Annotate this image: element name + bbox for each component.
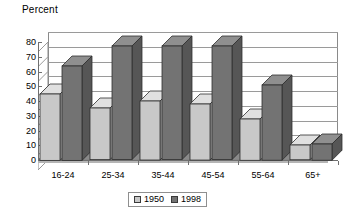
x-tick-65+ — [338, 161, 339, 165]
x-axis-label-65+: 65+ — [288, 170, 338, 180]
x-axis-label-55-64: 55-64 — [238, 170, 288, 180]
legend-item-1998[interactable]: 1998 — [171, 195, 201, 204]
chart-root: Percent — [0, 0, 351, 219]
legend-swatch-1998 — [171, 196, 178, 203]
x-axis-label-35-44: 35-44 — [138, 170, 188, 180]
x-tick-35-44 — [188, 161, 189, 165]
legend-label-1998: 1998 — [181, 195, 201, 204]
legend-label-1950: 1950 — [144, 195, 164, 204]
plot-area: 80 70 60 50 40 30 20 10 0 16-2425-3435-4… — [0, 0, 351, 219]
legend-swatch-1950 — [134, 196, 141, 203]
chart-legend: 1950 1998 — [128, 192, 207, 207]
category-labels-layer: 16-2425-3435-4445-5455-6465+ — [0, 0, 351, 219]
x-tick-16-24 — [88, 161, 89, 165]
x-axis-label-16-24: 16-24 — [38, 170, 88, 180]
x-tick-45-54 — [238, 161, 239, 165]
legend-item-1950[interactable]: 1950 — [134, 195, 164, 204]
x-tick-25-34 — [138, 161, 139, 165]
x-tick-55-64 — [288, 161, 289, 165]
x-axis-label-25-34: 25-34 — [88, 170, 138, 180]
x-axis-label-45-54: 45-54 — [188, 170, 238, 180]
